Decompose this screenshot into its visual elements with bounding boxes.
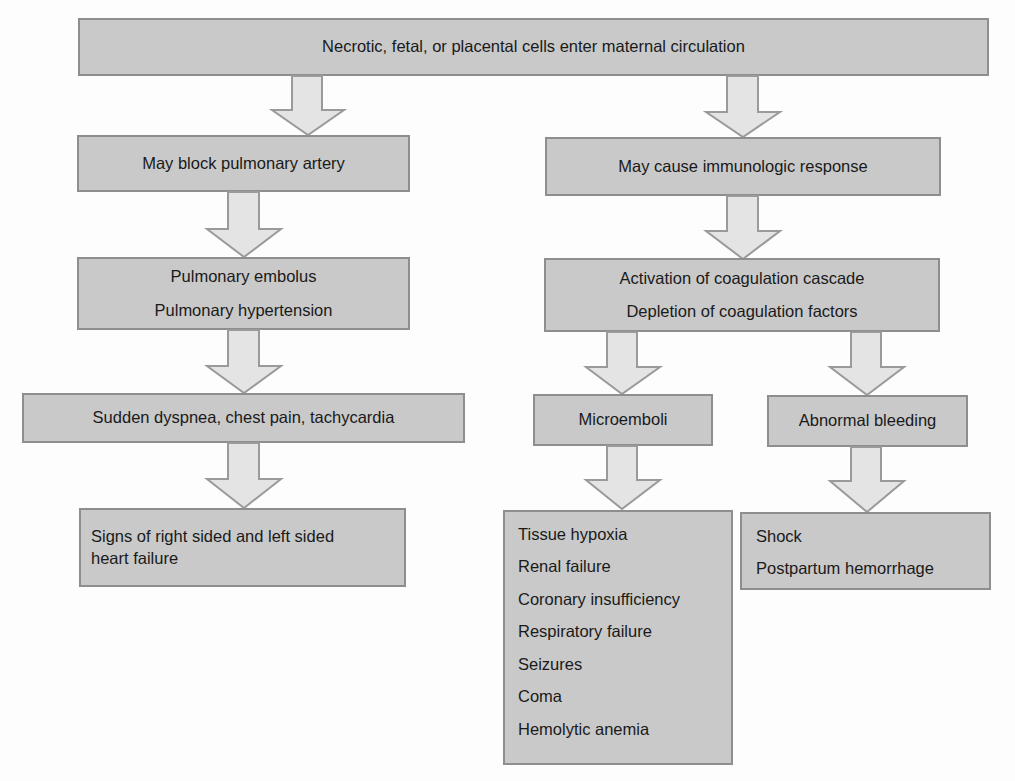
node-label-line-2: Depletion of coagulation factors [626, 301, 857, 322]
node-label-line-1: Pulmonary embolus [171, 266, 317, 287]
node-label-line-2: Pulmonary hypertension [155, 300, 333, 321]
node-microemboli: Microemboli [533, 394, 713, 446]
arrow-down-icon [705, 196, 781, 260]
node-sudden-dyspnea: Sudden dyspnea, chest pain, tachycardia [22, 393, 465, 443]
outcome-item: Renal failure [518, 556, 611, 577]
outcome-item: Coma [518, 686, 562, 707]
arrow-down-icon [206, 443, 282, 509]
node-immunologic-response: May cause immunologic response [545, 137, 941, 196]
node-heart-failure-signs: Signs of right sided and left sided hear… [79, 508, 406, 587]
node-block-pulmonary-artery: May block pulmonary artery [77, 135, 410, 192]
node-label-line-1: Signs of right sided and left sided [91, 526, 334, 547]
node-label: May cause immunologic response [618, 156, 867, 177]
outcome-item: Respiratory failure [518, 621, 652, 642]
arrow-down-icon [206, 192, 282, 258]
arrow-down-icon [829, 332, 905, 396]
node-coagulation-cascade: Activation of coagulation cascade Deplet… [544, 258, 940, 332]
node-pulmonary-embolus: Pulmonary embolus Pulmonary hypertension [77, 257, 410, 330]
outcome-item: Hemolytic anemia [518, 719, 649, 740]
outcome-item: Coronary insufficiency [518, 589, 680, 610]
arrow-down-icon [705, 76, 781, 138]
arrow-down-icon [585, 332, 661, 395]
node-label: Abnormal bleeding [799, 410, 937, 431]
node-microemboli-outcomes: Tissue hypoxia Renal failure Coronary in… [503, 510, 733, 765]
node-label: Microemboli [579, 409, 668, 430]
root-label: Necrotic, fetal, or placental cells ente… [322, 36, 745, 57]
outcome-item: Postpartum hemorrhage [756, 558, 934, 579]
outcome-item: Tissue hypoxia [518, 524, 627, 545]
node-abnormal-bleeding: Abnormal bleeding [767, 395, 968, 447]
node-label: May block pulmonary artery [142, 153, 345, 174]
outcome-item: Shock [756, 526, 802, 547]
arrow-down-icon [829, 447, 905, 513]
outcome-item: Seizures [518, 654, 582, 675]
arrow-down-icon [206, 330, 282, 394]
arrow-down-icon [271, 76, 345, 136]
node-label-line-1: Activation of coagulation cascade [620, 268, 865, 289]
arrow-down-icon [585, 446, 661, 510]
node-label-line-2: heart failure [91, 548, 178, 569]
node-bleeding-outcomes: Shock Postpartum hemorrhage [740, 512, 991, 590]
node-label: Sudden dyspnea, chest pain, tachycardia [93, 407, 395, 428]
root-node: Necrotic, fetal, or placental cells ente… [78, 18, 989, 76]
